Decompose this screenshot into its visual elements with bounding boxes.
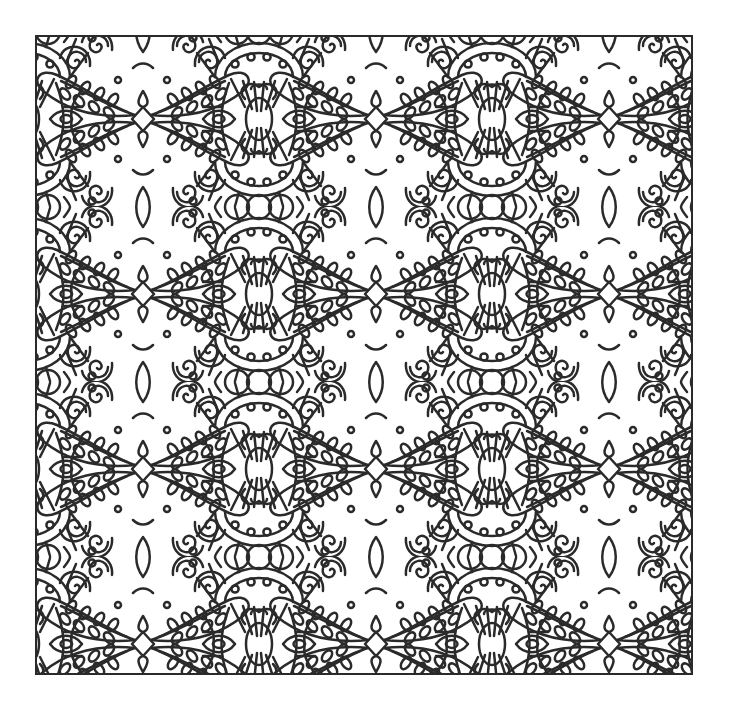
pattern-frame [35, 35, 693, 675]
artwork-description: Black line-art ornamental pattern of rep… [0, 0, 1, 1]
pattern-fill [35, 35, 693, 675]
ornamental-pattern [35, 35, 693, 675]
coloring-page-canvas: Black line-art ornamental pattern of rep… [0, 0, 730, 709]
